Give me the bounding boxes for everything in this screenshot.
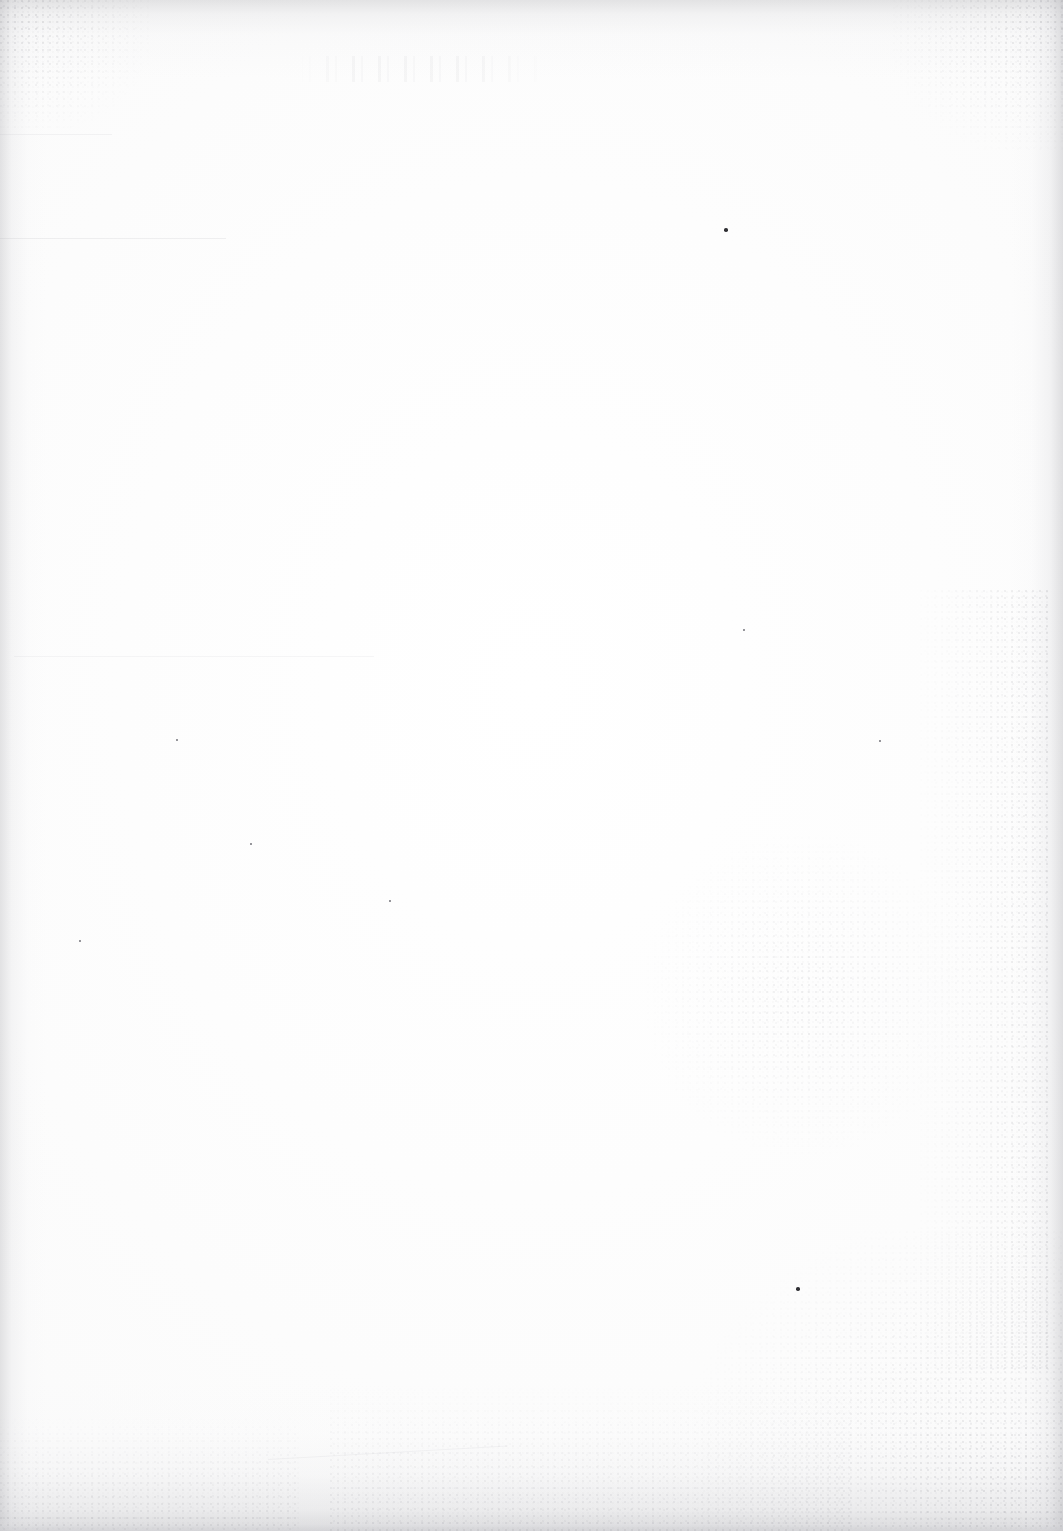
scan-edge-shadow-top [0,0,1063,78]
scanned-page [0,0,1063,1531]
scan-edge-shadow-left [0,0,46,1531]
scan-edge-shadow-right [1011,0,1063,1531]
page-content-area [70,70,993,1441]
scan-platen-edge-line [0,1517,1063,1531]
scan-scratch-line-bottom [268,1446,508,1460]
